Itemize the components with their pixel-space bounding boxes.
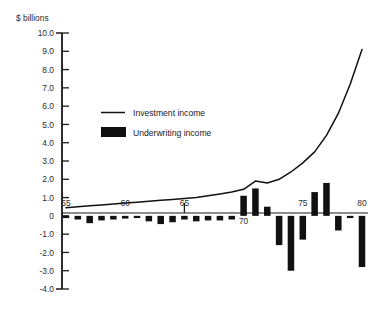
bar-underwriting-income — [122, 216, 129, 219]
y-tick-label: -2.0 — [40, 248, 55, 258]
chart-legend: Investment income Underwriting income — [101, 108, 212, 138]
y-tick-label: 1.0 — [42, 193, 54, 203]
x-axis-ticks: 556065707580 — [61, 198, 367, 226]
legend-label-underwriting-income: Underwriting income — [133, 128, 212, 138]
bar-underwriting-income — [359, 216, 366, 267]
bar-underwriting-income — [169, 216, 176, 222]
bar-underwriting-income — [311, 192, 318, 216]
y-tick-label: -4.0 — [40, 284, 55, 294]
bar-underwriting-income — [86, 216, 93, 223]
bar-underwriting-income — [264, 207, 271, 216]
bar-underwriting-income — [276, 216, 283, 245]
bar-underwriting-income — [323, 183, 330, 216]
y-axis-spine — [56, 33, 62, 289]
income-chart: $ billions 10.09.08.07.06.05.04.03.02.01… — [0, 0, 382, 313]
y-axis-ticks: 10.09.08.07.06.05.04.03.02.01.00-1.0-2.0… — [38, 28, 69, 294]
y-tick-label: 6.0 — [42, 101, 54, 111]
bar-underwriting-income — [181, 216, 188, 220]
y-tick-label: -1.0 — [40, 229, 55, 239]
bar-underwriting-income — [335, 216, 342, 231]
bar-underwriting-income — [205, 216, 212, 221]
bar-underwriting-income — [157, 216, 164, 224]
y-axis-label-text: $ billions — [16, 13, 49, 23]
y-tick-label: 5.0 — [42, 120, 54, 130]
bar-underwriting-income — [75, 216, 82, 220]
x-tick-label: 80 — [357, 198, 367, 208]
x-tick-label: 65 — [180, 198, 190, 208]
y-tick-label: 9.0 — [42, 46, 54, 56]
bar-underwriting-income — [240, 196, 247, 216]
y-tick-label: 0 — [49, 211, 54, 221]
y-tick-label: 2.0 — [42, 174, 54, 184]
x-tick-label: 75 — [298, 198, 308, 208]
bar-underwriting-income — [110, 216, 117, 220]
y-tick-label: -3.0 — [40, 266, 55, 276]
legend-swatch-icon — [101, 127, 126, 137]
y-tick-label: 8.0 — [42, 65, 54, 75]
bar-underwriting-income — [347, 216, 354, 218]
legend-label-investment-income: Investment income — [133, 108, 205, 118]
y-axis-label: $ billions — [16, 13, 49, 23]
y-tick-label: 4.0 — [42, 138, 54, 148]
bar-underwriting-income — [146, 216, 153, 221]
bar-underwriting-income — [134, 216, 141, 218]
bar-underwriting-income — [300, 216, 307, 240]
bar-series-underwriting-income — [63, 183, 366, 271]
bar-underwriting-income — [63, 216, 70, 218]
bar-underwriting-income — [98, 216, 105, 221]
bar-underwriting-income — [229, 216, 236, 220]
x-tick-label: 55 — [61, 198, 71, 208]
y-tick-label: 3.0 — [42, 156, 54, 166]
y-tick-label: 10.0 — [38, 28, 55, 38]
bar-underwriting-income — [193, 216, 200, 221]
bar-underwriting-income — [217, 216, 224, 221]
y-tick-label: 7.0 — [42, 83, 54, 93]
chart-container: $ billions 10.09.08.07.06.05.04.03.02.01… — [0, 0, 382, 313]
x-tick-label: 70 — [239, 216, 249, 226]
bar-underwriting-income — [288, 216, 295, 271]
bar-underwriting-income — [252, 188, 259, 215]
